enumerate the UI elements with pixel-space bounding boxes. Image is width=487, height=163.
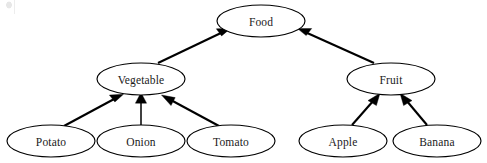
edge-fruit-food[interactable] bbox=[298, 29, 375, 64]
node-label-potato: Potato bbox=[36, 136, 66, 148]
node-food[interactable]: Food bbox=[217, 5, 305, 37]
hierarchy-graph: Food Vegetable Fruit Potato Onion Tomato bbox=[0, 0, 487, 163]
edge-banana-fruit[interactable] bbox=[400, 93, 427, 125]
edge-vegetable-food[interactable] bbox=[158, 28, 231, 63]
node-label-fruit: Fruit bbox=[379, 74, 403, 86]
node-fruit[interactable]: Fruit bbox=[347, 63, 435, 95]
node-vegetable[interactable]: Vegetable bbox=[97, 63, 185, 95]
node-label-tomato: Tomato bbox=[213, 136, 249, 148]
diagram-canvas: Food Vegetable Fruit Potato Onion Tomato bbox=[0, 0, 487, 163]
node-tomato[interactable]: Tomato bbox=[187, 125, 275, 157]
node-label-vegetable: Vegetable bbox=[118, 74, 165, 87]
node-banana[interactable]: Banana bbox=[393, 125, 481, 157]
node-onion[interactable]: Onion bbox=[97, 125, 185, 157]
node-potato[interactable]: Potato bbox=[7, 125, 95, 157]
node-label-food: Food bbox=[249, 16, 273, 28]
edge-onion-vegetable[interactable] bbox=[135, 93, 146, 126]
edge-tomato-vegetable[interactable] bbox=[162, 95, 220, 126]
node-label-banana: Banana bbox=[419, 136, 454, 148]
node-label-onion: Onion bbox=[126, 136, 156, 148]
edge-apple-fruit[interactable] bbox=[352, 93, 380, 125]
node-label-apple: Apple bbox=[329, 136, 358, 149]
edge-potato-vegetable[interactable] bbox=[64, 94, 124, 126]
node-apple[interactable]: Apple bbox=[299, 125, 387, 157]
node-layer: Food Vegetable Fruit Potato Onion Tomato bbox=[7, 5, 481, 157]
